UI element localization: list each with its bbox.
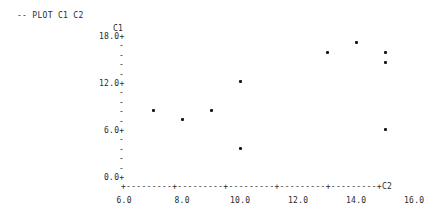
y-axis-dash: - <box>119 61 124 69</box>
data-point <box>384 51 387 54</box>
data-point <box>355 41 358 44</box>
data-point <box>181 118 184 121</box>
x-tick-label: 8.0 <box>175 197 190 205</box>
data-point <box>210 109 213 112</box>
y-axis-dash: - <box>119 165 124 173</box>
y-tick-label: 18.0+ <box>99 33 125 41</box>
y-axis-dash: - <box>119 42 124 50</box>
y-tick-label: 6.0+ <box>104 127 124 135</box>
x-tick-label: 12.0 <box>288 197 308 205</box>
data-point <box>326 51 329 54</box>
data-point <box>152 109 155 112</box>
command-line: -- PLOT C1 C2 <box>17 12 84 20</box>
x-tick-label: 6.0 <box>117 197 132 205</box>
y-axis-dash: - <box>119 71 124 79</box>
y-axis-dash: - <box>119 89 124 97</box>
y-axis-dash: - <box>119 118 124 126</box>
x-tick-label: 14.0 <box>346 197 366 205</box>
data-point <box>384 61 387 64</box>
data-point <box>384 128 387 131</box>
data-point <box>239 80 242 83</box>
x-axis-line: +---------+---------+---------+---------… <box>121 183 392 191</box>
y-axis-dash: - <box>119 52 124 60</box>
y-axis-dash: - <box>119 155 124 163</box>
y-axis-dash: - <box>119 99 124 107</box>
y-axis-dash: - <box>119 108 124 116</box>
y-tick-label: 0.0+ <box>104 174 124 182</box>
y-axis-dash: - <box>119 136 124 144</box>
x-tick-label: 10.0 <box>230 197 250 205</box>
x-tick-label: 16.0 <box>404 197 424 205</box>
data-point <box>239 147 242 150</box>
y-tick-label: 12.0+ <box>99 80 125 88</box>
y-axis-dash: - <box>119 146 124 154</box>
